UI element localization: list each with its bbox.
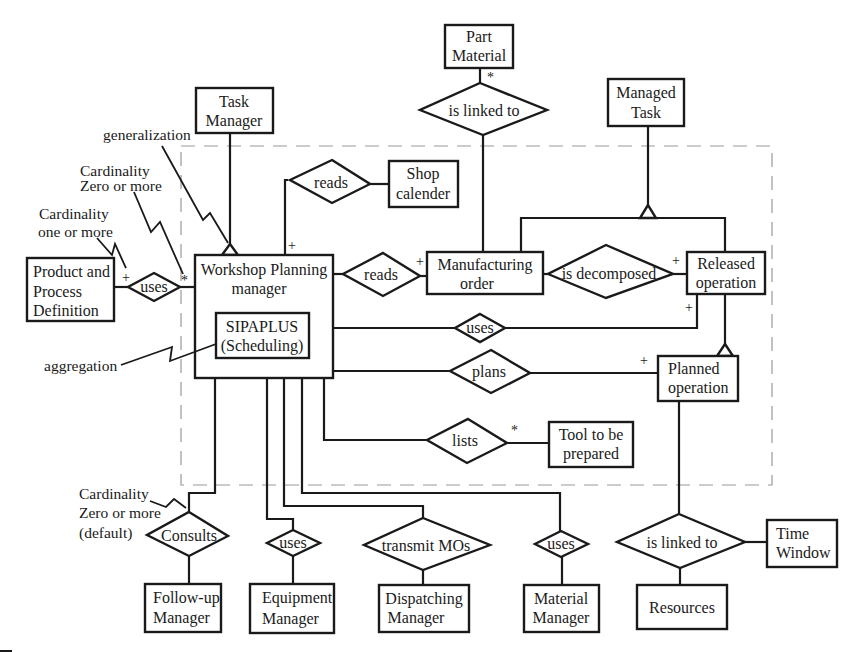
entity-label: operation (668, 379, 728, 397)
star-mark: * (181, 273, 188, 288)
entity-part-material[interactable]: Part Material (445, 25, 513, 68)
relationship-label: Consults (161, 527, 217, 544)
relationship-uses-material[interactable]: uses (535, 531, 588, 557)
relationship-label: uses (466, 319, 494, 336)
star-mark: * (511, 423, 518, 438)
entity-task-manager[interactable]: Task Manager (196, 88, 273, 133)
entity-followup-manager[interactable]: Follow-up Manager (145, 584, 221, 632)
relationship-label: reads (364, 266, 398, 283)
relationship-uses-equipment[interactable]: uses (267, 530, 320, 556)
annotation-label: generalization (103, 126, 191, 143)
plus-mark: + (122, 270, 130, 285)
relationship-reads-order[interactable]: reads (343, 253, 420, 296)
star-mark: * (487, 70, 494, 85)
relationship-label: plans (472, 363, 506, 381)
relationship-label: lists (452, 432, 478, 449)
entity-label: Definition (33, 302, 99, 319)
relationship-label: uses (140, 278, 168, 295)
annotation-aggregation: aggregation (44, 344, 216, 374)
annotation-label: Cardinality (39, 205, 109, 222)
entity-label: Manager (206, 112, 264, 130)
entity-label: Time (776, 525, 809, 542)
entity-time-window[interactable]: Time Window (767, 520, 837, 567)
er-diagram: Part Material Task Manager Managed Task … (0, 0, 861, 652)
entity-label: operation (696, 274, 756, 292)
entity-managed-task[interactable]: Managed Task (608, 79, 684, 126)
generalization-triangle-planned (717, 344, 733, 356)
entity-label: Product and (33, 263, 110, 280)
entity-label: Manager (533, 609, 591, 627)
entity-label: manager (231, 280, 287, 298)
relationship-lists[interactable]: lists (427, 419, 507, 463)
relationship-reads-calendar[interactable]: reads (290, 160, 370, 203)
entity-label: Workshop Planning (201, 261, 327, 279)
entity-shop-calender[interactable]: Shop calender (389, 161, 458, 207)
relationship-is-linked-to-resources[interactable]: is linked to (617, 514, 745, 568)
entity-label: Dispatching (385, 590, 462, 608)
entity-label: Manager (262, 610, 320, 628)
relationship-transmit-mos[interactable]: transmit MOs (364, 518, 490, 570)
relationship-is-linked-to-part[interactable]: is linked to (420, 83, 547, 135)
relationship-label: is linked to (448, 102, 519, 119)
plus-mark: + (672, 253, 680, 268)
entity-label: (Scheduling) (221, 337, 304, 355)
annotation-label: Zero or more (79, 504, 161, 521)
entity-label: Manager (153, 609, 211, 627)
entity-equipment-manager[interactable]: Equipment Manager (250, 584, 334, 633)
entity-label: Resources (649, 599, 715, 616)
plus-mark: + (685, 300, 693, 315)
plus-mark: + (416, 254, 424, 269)
relationship-plans[interactable]: plans (450, 350, 530, 393)
entity-label: Follow-up (153, 589, 220, 607)
relationship-label: is linked to (646, 534, 717, 551)
entity-label: Material (534, 590, 589, 607)
entity-label: Released (697, 255, 755, 272)
entity-label: SIPAPLUS (226, 318, 298, 335)
entity-label: order (460, 275, 494, 292)
annotation-label: Zero or more (80, 177, 162, 194)
entity-label: Material (452, 47, 507, 64)
plus-mark: + (640, 353, 648, 368)
annotation-label: aggregation (44, 357, 117, 374)
entity-label: Manager (388, 609, 446, 627)
annotation-label: Cardinality (79, 485, 149, 502)
entity-label: Part (466, 28, 492, 45)
relationship-is-decomposed[interactable]: is decomposed (548, 245, 673, 298)
entity-label: Task (631, 104, 661, 121)
entity-sipaplus-scheduling[interactable]: SIPAPLUS (Scheduling) (216, 313, 309, 358)
entity-label: Window (776, 544, 831, 561)
entity-dispatching-manager[interactable]: Dispatching Manager (379, 585, 469, 632)
entity-label: Equipment (262, 589, 333, 607)
entity-label: Manufacturing (437, 256, 532, 274)
entity-released-operation[interactable]: Released operation (687, 252, 765, 294)
entity-label: calender (396, 185, 451, 202)
entity-label: Process (33, 283, 82, 300)
entity-label: Shop (407, 165, 440, 183)
plus-mark: + (288, 238, 296, 253)
entity-tool-to-be-prepared[interactable]: Tool to be prepared (549, 422, 633, 467)
entity-label: Tool to be (559, 426, 624, 443)
entity-label: Planned (668, 360, 720, 377)
relationship-uses-product[interactable]: uses (128, 273, 180, 301)
generalization-triangle-managed-task (640, 205, 656, 218)
relationship-label: uses (279, 534, 307, 551)
entity-label: Managed (616, 84, 676, 102)
relationship-label: reads (314, 174, 348, 191)
entity-resources[interactable]: Resources (637, 585, 727, 629)
generalization-triangle-workshop (222, 244, 238, 255)
entity-label: prepared (563, 445, 619, 463)
relationship-uses-released[interactable]: uses (455, 314, 505, 342)
entity-manufacturing-order[interactable]: Manufacturing order (427, 252, 543, 294)
entity-product-process-definition[interactable]: Product and Process Definition (27, 258, 114, 321)
entity-planned-operation[interactable]: Planned operation (658, 356, 738, 401)
annotation-label: one or more (38, 223, 113, 240)
relationship-label: uses (547, 535, 575, 552)
entity-material-manager[interactable]: Material Manager (524, 585, 599, 632)
relationship-label: transmit MOs (382, 537, 470, 554)
annotation-label: (default) (79, 524, 132, 542)
entity-label: Task (219, 93, 249, 110)
relationship-label: is decomposed (562, 265, 657, 283)
